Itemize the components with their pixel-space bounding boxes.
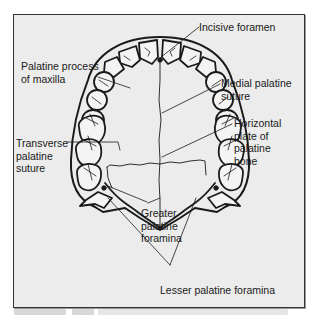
- left-wing: [80, 192, 112, 208]
- medial-palatine-suture: [159, 60, 161, 228]
- tooth-lateral-incisor-left: [119, 46, 140, 67]
- label-palatine-process: Palatine process of maxilla: [21, 60, 99, 85]
- label-horizontal-plate: Horizontal plate of palatine bone: [234, 117, 281, 167]
- incisive-foramen-mark: [158, 58, 162, 62]
- label-incisive-foramen: Incisive foramen: [199, 21, 275, 34]
- transverse-palatine-suture: [107, 160, 206, 175]
- right-wing: [208, 192, 240, 208]
- tooth-premolar2-left: [87, 90, 107, 110]
- label-transverse-palatine-suture: Transverse palatine suture: [16, 137, 68, 175]
- tooth-central-incisor-left: [139, 40, 158, 64]
- greater-palatine-foramen-left: [102, 186, 106, 190]
- label-lesser-palatine-foramina: Lesser palatine foramina: [160, 284, 275, 297]
- label-greater-palatine-foramina: Greater palatine foramina: [141, 207, 182, 245]
- tooth-molar3-left: [76, 139, 101, 166]
- tooth-lateral-incisor-right: [180, 46, 201, 67]
- caption-fragment: [14, 309, 66, 315]
- caption-fragment: [98, 309, 288, 315]
- caption-fragment: [72, 309, 94, 315]
- teeth-right: [162, 40, 244, 190]
- greater-palatine-foramen-right: [214, 186, 218, 190]
- label-medial-palatine-suture: Medial palatine suture: [221, 77, 292, 102]
